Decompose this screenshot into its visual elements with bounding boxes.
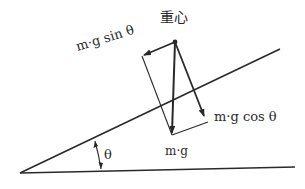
construction-line-bottom xyxy=(172,122,208,135)
center-of-gravity-dot xyxy=(173,40,178,45)
angle-theta-label: θ xyxy=(104,148,112,161)
ground-line xyxy=(20,167,295,173)
construction-line-left xyxy=(142,56,172,135)
angle-arrowhead-bottom xyxy=(99,162,104,169)
sin-component-arrow xyxy=(144,42,175,55)
weight-arrow xyxy=(172,42,175,133)
cos-component-arrow xyxy=(175,42,204,116)
center-of-gravity-label: 重心 xyxy=(160,10,188,24)
weight-label: m·g xyxy=(165,145,188,157)
diagram-svg xyxy=(0,0,305,189)
inclined-plane-diagram: 重心 m·g sin θ m·g cos θ m·g θ xyxy=(0,0,305,189)
cos-component-label: m·g cos θ xyxy=(214,110,277,123)
